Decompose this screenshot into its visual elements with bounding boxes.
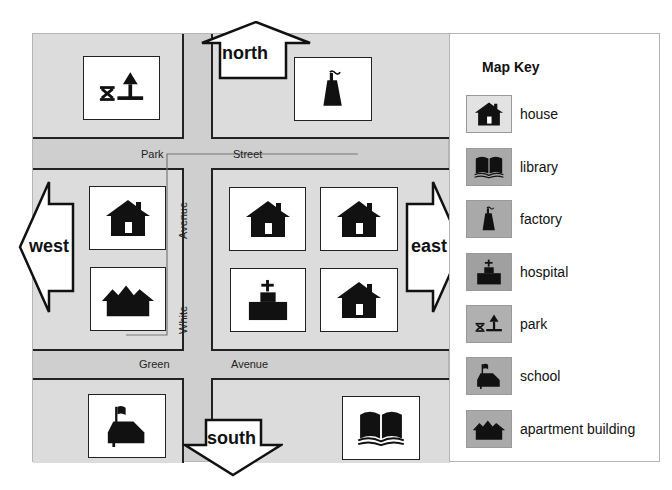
house-icon: [473, 101, 505, 127]
key-item-school: school: [466, 356, 560, 396]
key-label-school: school: [520, 368, 560, 384]
street-label-green: Green: [139, 358, 170, 370]
north-label: north: [222, 43, 268, 64]
swatch-park: [466, 305, 512, 343]
hospital-icon: [476, 259, 502, 285]
key-item-apartment-building: apartment building: [466, 409, 635, 449]
map-key-title: Map Key: [482, 59, 540, 75]
park-icon: [99, 71, 145, 105]
west-label: west: [29, 236, 69, 257]
tile-library[interactable]: [342, 396, 420, 460]
street-label-street: Street: [233, 148, 262, 160]
street-label-white: White: [177, 306, 189, 334]
north-arrow[interactable]: north: [200, 21, 312, 80]
school-icon: [476, 362, 502, 390]
key-item-house: house: [466, 94, 558, 134]
key-item-library: library: [466, 147, 558, 187]
key-label-house: house: [520, 106, 558, 122]
swatch-hospital: [466, 253, 512, 291]
map: Park Street Green Avenue Avenue White: [32, 33, 449, 462]
east-label: east: [411, 236, 447, 257]
key-label-library: library: [520, 159, 558, 175]
house-icon: [103, 198, 153, 238]
key-item-hospital: hospital: [466, 252, 568, 292]
swatch-school: [466, 357, 512, 395]
street-label-park: Park: [141, 148, 164, 160]
school-icon: [106, 404, 148, 448]
tile-hospital[interactable]: [230, 268, 306, 332]
key-label-hospital: hospital: [520, 264, 568, 280]
apartment-icon: [101, 279, 155, 319]
street-label-green-avenue: Avenue: [231, 358, 268, 370]
tile-house[interactable]: [320, 268, 398, 332]
book-icon: [474, 155, 504, 179]
factory-icon: [321, 69, 345, 109]
south-label: south: [207, 428, 256, 449]
west-arrow[interactable]: west: [18, 180, 76, 315]
tile-house[interactable]: [89, 186, 166, 250]
house-icon: [334, 199, 384, 239]
park-icon: [475, 313, 503, 335]
swatch-factory: [466, 200, 512, 238]
street-label-white-avenue: Avenue: [177, 202, 189, 239]
key-label-park: park: [520, 316, 547, 332]
tile-house[interactable]: [229, 187, 306, 251]
swatch-house: [466, 95, 512, 133]
south-arrow[interactable]: south: [183, 418, 283, 478]
book-icon: [357, 409, 405, 447]
tile-house[interactable]: [320, 187, 398, 251]
swatch-library: [466, 148, 512, 186]
key-label-apartment-building: apartment building: [520, 421, 635, 437]
swatch-apartment-building: [466, 410, 512, 448]
apartment-icon: [472, 417, 506, 441]
key-item-factory: factory: [466, 199, 562, 239]
house-icon: [334, 280, 384, 320]
factory-icon: [481, 206, 497, 232]
tile-apartment-building[interactable]: [90, 267, 166, 331]
tile-park[interactable]: [83, 56, 160, 120]
house-icon: [243, 199, 293, 239]
key-item-park: park: [466, 304, 547, 344]
key-label-factory: factory: [520, 211, 562, 227]
tile-school[interactable]: [88, 394, 166, 458]
map-key: Map Key house library factory hospital p…: [449, 33, 660, 462]
hospital-icon: [247, 279, 289, 321]
